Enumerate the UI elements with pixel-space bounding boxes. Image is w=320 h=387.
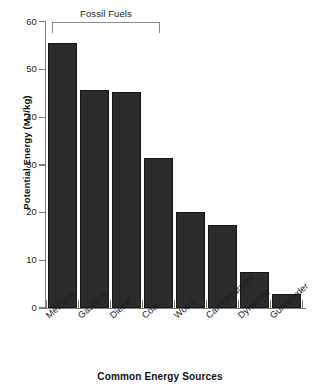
y-tick-40 [39, 117, 45, 118]
y-axis-title: Potential Energy (MJ/kg) [21, 53, 32, 253]
y-tick-20 [39, 212, 45, 213]
y-tick-label-60: 60 [0, 17, 37, 27]
fossil-fuels-annotation-label: Fossil Fuels [46, 8, 166, 19]
x-tick-8 [302, 300, 303, 309]
x-tick-5 [206, 300, 207, 309]
x-tick-3 [142, 300, 143, 309]
x-tick-0 [46, 300, 47, 309]
bar-gasoline [80, 90, 109, 308]
x-tick-1 [78, 300, 79, 309]
x-tick-2 [110, 300, 111, 309]
chart-figure: Fossil Fuels 0 10 20 30 40 50 60 Methane… [0, 0, 320, 387]
y-tick-10 [39, 260, 45, 261]
plot-area [46, 22, 305, 308]
bar-wood [176, 212, 205, 308]
y-tick-50 [39, 69, 45, 70]
y-tick-label-10: 10 [0, 255, 37, 265]
y-tick-60 [39, 21, 45, 22]
bar-coal [144, 158, 173, 308]
x-tick-6 [238, 300, 239, 309]
y-tick-30 [39, 164, 45, 165]
bar-methane [48, 43, 77, 308]
x-tick-4 [174, 300, 175, 309]
x-axis-title: Common Energy Sources [0, 371, 320, 382]
y-tick-label-0: 0 [0, 303, 37, 313]
x-tick-7 [270, 300, 271, 309]
bar-diesel [112, 92, 141, 308]
